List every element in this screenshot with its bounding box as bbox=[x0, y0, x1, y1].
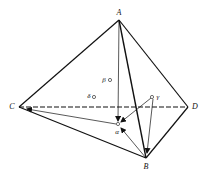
label-delta: δ bbox=[87, 93, 90, 100]
label-D: D bbox=[192, 103, 198, 111]
point-alpha-circle bbox=[116, 122, 119, 125]
label-A: A bbox=[117, 9, 122, 17]
point-beta-circle bbox=[108, 78, 111, 81]
label-C: C bbox=[9, 103, 14, 111]
edge-A-D bbox=[119, 20, 188, 107]
edge-A-B bbox=[119, 20, 146, 158]
point-gamma-circle bbox=[150, 95, 153, 98]
edge-C-B bbox=[19, 107, 146, 158]
edge-A-C bbox=[19, 20, 119, 107]
arrow-A-alpha bbox=[118, 20, 119, 121]
arrow-alpha-C bbox=[27, 109, 116, 124]
label-B: B bbox=[144, 163, 149, 171]
label-gamma: γ bbox=[157, 94, 160, 101]
diagram-svg bbox=[0, 0, 205, 180]
label-alpha: α bbox=[115, 129, 119, 136]
label-beta: β bbox=[102, 77, 106, 84]
point-delta-circle bbox=[92, 95, 95, 98]
tetrahedron-diagram: A C D B α β δ γ bbox=[0, 0, 205, 180]
edge-B-D bbox=[146, 107, 188, 158]
arrow-gamma-alpha bbox=[121, 98, 151, 122]
